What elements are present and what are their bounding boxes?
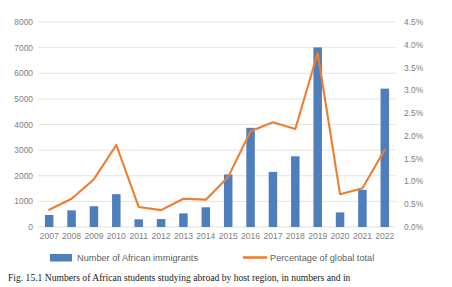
right-axis-tick: 3.5% <box>404 63 424 73</box>
combo-chart: 010002000300040005000600070008000 0.0%0.… <box>0 0 452 272</box>
bar <box>90 206 99 227</box>
legend-label: Number of African immigrants <box>77 253 198 263</box>
x-axis-tick: 2009 <box>84 231 103 241</box>
left-axis-tick: 4000 <box>14 120 33 130</box>
right-axis-tick: 2.0% <box>404 131 424 141</box>
bar-series-african-immigrants <box>45 47 389 227</box>
left-axis-tick: 6000 <box>14 68 33 78</box>
bar <box>45 215 54 227</box>
x-axis-tick: 2016 <box>241 231 260 241</box>
bar <box>381 89 390 227</box>
x-axis-tick: 2012 <box>152 231 171 241</box>
x-axis-tick: 2017 <box>263 231 282 241</box>
left-axis-tick: 8000 <box>14 17 33 27</box>
x-axis-tick: 2022 <box>375 231 394 241</box>
right-axis-tick: 4.0% <box>404 40 424 50</box>
x-axis-tick: 2018 <box>286 231 305 241</box>
x-axis-tick: 2021 <box>353 231 372 241</box>
x-axis-tick: 2007 <box>40 231 59 241</box>
x-axis-tick: 2013 <box>174 231 193 241</box>
x-axis-tick: 2008 <box>62 231 81 241</box>
chart-legend: Number of African immigrantsPercentage o… <box>50 253 374 263</box>
chart-container: 010002000300040005000600070008000 0.0%0.… <box>0 0 452 287</box>
x-axis-tick: 2019 <box>308 231 327 241</box>
right-axis-tick: 4.5% <box>404 17 424 27</box>
x-axis-tick: 2010 <box>107 231 126 241</box>
left-axis-tick: 3000 <box>14 145 33 155</box>
bar <box>202 207 211 227</box>
x-axis-tick: 2020 <box>331 231 350 241</box>
bar <box>358 190 367 227</box>
bar <box>246 128 255 227</box>
right-axis-tick: 0.5% <box>404 199 424 209</box>
x-axis-tick: 2011 <box>129 231 148 241</box>
left-axis-tick: 0 <box>28 222 33 232</box>
line-series-percentage-global-total <box>49 53 385 210</box>
left-axis-tick-labels: 010002000300040005000600070008000 <box>14 17 33 232</box>
right-axis-tick-labels: 0.0%0.5%1.0%1.5%2.0%2.5%3.0%3.5%4.0%4.5% <box>404 17 424 232</box>
bar <box>179 213 188 227</box>
x-axis-tick-labels: 2007200820092010201120122013201420152016… <box>40 231 395 241</box>
right-axis-tick: 0.0% <box>404 222 424 232</box>
figure-caption: Fig. 15.1 Numbers of African students st… <box>8 272 350 284</box>
left-axis-tick: 1000 <box>14 196 33 206</box>
bar <box>269 172 278 227</box>
left-axis-tick: 7000 <box>14 43 33 53</box>
left-axis-tick: 2000 <box>14 171 33 181</box>
bar <box>291 156 300 227</box>
right-axis-tick: 1.5% <box>404 154 424 164</box>
gridlines-group <box>38 22 396 227</box>
bar <box>67 210 76 227</box>
legend-item[interactable]: Number of African immigrants <box>50 253 198 263</box>
left-axis-tick: 5000 <box>14 94 33 104</box>
legend-swatch-bar-icon <box>50 254 72 262</box>
x-axis-tick: 2014 <box>196 231 215 241</box>
x-axis-tick: 2015 <box>219 231 238 241</box>
legend-label: Percentage of global total <box>270 253 374 263</box>
bar <box>336 212 345 227</box>
trend-line <box>49 53 385 210</box>
bar <box>224 174 233 227</box>
bar <box>157 219 166 227</box>
bar <box>112 194 121 227</box>
right-axis-tick: 3.0% <box>404 85 424 95</box>
legend-item[interactable]: Percentage of global total <box>243 253 374 263</box>
right-axis-tick: 2.5% <box>404 108 424 118</box>
bar <box>134 219 143 227</box>
figure-caption-strip: Fig. 15.1 Numbers of African students st… <box>0 272 452 287</box>
right-axis-tick: 1.0% <box>404 176 424 186</box>
